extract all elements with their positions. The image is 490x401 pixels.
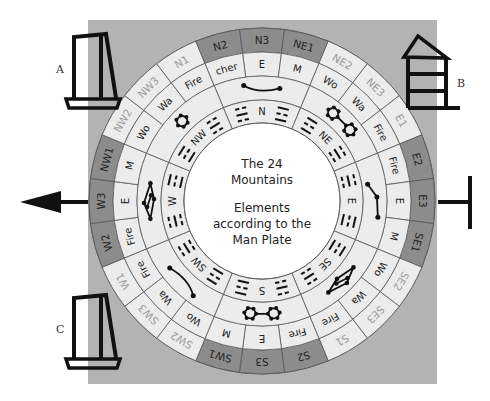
direction-label-e: E: [346, 198, 357, 204]
mountain-label-w3: W3: [95, 192, 107, 209]
t-junction-icon: [438, 176, 470, 229]
building-a-label: A: [55, 63, 65, 76]
diagram-canvas: N3ENE1MNE2WoNE3WaE1FireE2FireE3ESE1MSE2W…: [0, 0, 490, 401]
element-label-e3: E: [394, 198, 405, 204]
direction-label-n: N: [258, 106, 265, 117]
arrow-left-icon: [20, 191, 88, 213]
center-subtitle-line1: Elements: [234, 201, 290, 215]
center-title-line1: The 24: [240, 157, 282, 171]
center-subtitle-line2: according to the: [213, 217, 311, 231]
building-b-label: B: [457, 77, 465, 90]
mountain-label-e3: E3: [417, 194, 429, 207]
feng-shui-diagram: N3ENE1MNE2WoNE3WaE1FireE2FireE3ESE1MSE2W…: [0, 0, 490, 401]
direction-label-s: S: [259, 285, 265, 296]
element-label-w3: E: [120, 198, 131, 204]
mountain-label-n3: N3: [255, 34, 270, 46]
mountain-label-s3: S3: [255, 356, 268, 368]
center-title-line2: Mountains: [231, 173, 293, 187]
direction-label-w: W: [167, 196, 178, 206]
element-label-s3: E: [259, 333, 265, 344]
building-c-label: C: [56, 323, 64, 336]
center-subtitle-line3: Man Plate: [232, 233, 291, 247]
element-label-n3: E: [259, 59, 265, 70]
